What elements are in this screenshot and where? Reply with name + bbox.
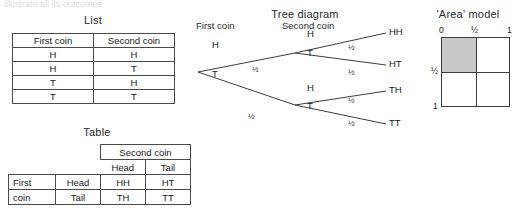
tree-label-h2b: H bbox=[307, 82, 314, 93]
list-cell: H bbox=[94, 48, 175, 62]
list-cell: T bbox=[94, 90, 175, 104]
tree-label-t2b: T bbox=[307, 100, 313, 111]
list-representation: List First coin Second coin H H H T T H … bbox=[12, 14, 175, 104]
tree-prob-h2a: ½ bbox=[348, 43, 355, 52]
tree-diagram-representation: Tree diagram First coin Second coin H T … bbox=[196, 6, 416, 136]
list-cell: H bbox=[94, 76, 175, 90]
table-corner-blank bbox=[9, 145, 56, 160]
table-row: T T bbox=[13, 90, 175, 104]
tree-prob-h2b: ½ bbox=[348, 96, 355, 105]
table-cell-tt: TT bbox=[146, 190, 191, 205]
table-representation: Table Second coin Head Tail First Head H… bbox=[8, 126, 191, 205]
tree-outcome-hh: HH bbox=[389, 26, 403, 37]
table-corner-blank bbox=[56, 145, 101, 160]
tree-stage1-header: First coin bbox=[196, 20, 235, 31]
table-row-group-header-line1: First bbox=[9, 175, 56, 190]
area-x-tick-0: 0 bbox=[439, 25, 444, 35]
tree-prob-h1: ½ bbox=[252, 65, 259, 74]
table-cell-hh: HH bbox=[101, 175, 146, 190]
list-cell: H bbox=[13, 48, 94, 62]
list-cell: T bbox=[13, 76, 94, 90]
area-model-representation: 'Area' model 0 ½ 1 ½ 1 bbox=[420, 6, 516, 131]
table-corner-blank bbox=[56, 160, 101, 175]
tree-label-h2a: H bbox=[307, 28, 314, 39]
tree-outcome-th: TH bbox=[389, 84, 402, 95]
table-group-header-row: Second coin bbox=[9, 145, 191, 160]
tree-prob-t1: ½ bbox=[248, 112, 255, 121]
table-header-row: First coin Second coin bbox=[13, 34, 175, 48]
list-cell: T bbox=[94, 62, 175, 76]
area-model-title: 'Area' model bbox=[420, 8, 516, 20]
area-horizontal-divider bbox=[442, 72, 509, 73]
list-header-first-coin: First coin bbox=[13, 34, 94, 48]
tree-label-t1: T bbox=[212, 68, 218, 79]
table-cell-th: TH bbox=[101, 190, 146, 205]
tree-outcome-ht: HT bbox=[389, 58, 402, 69]
tree-prob-t2a: ½ bbox=[348, 68, 355, 77]
table-row: H H bbox=[13, 48, 175, 62]
table-row: coin Tail TH TT bbox=[9, 190, 191, 205]
area-x-tick-1: 1 bbox=[507, 25, 512, 35]
table-row-header-tail: Tail bbox=[56, 190, 101, 205]
table-row: First Head HH HT bbox=[9, 175, 191, 190]
tree-outcome-tt: TT bbox=[389, 117, 401, 128]
table-row: H T bbox=[13, 62, 175, 76]
table-row-header-head: Head bbox=[56, 175, 101, 190]
cropped-header-text: illustrate all its outcomes bbox=[4, 0, 204, 7]
area-model-square bbox=[441, 37, 510, 107]
table-col-group-header: Second coin bbox=[101, 145, 191, 160]
table-row: T H bbox=[13, 76, 175, 90]
tree-label-t2a: T bbox=[307, 47, 313, 58]
two-way-table: Second coin Head Tail First Head HH HT c… bbox=[8, 144, 191, 205]
list-cell: T bbox=[13, 90, 94, 104]
area-y-tick-1: 1 bbox=[433, 101, 438, 111]
table-title: Table bbox=[8, 126, 186, 138]
list-header-second-coin: Second coin bbox=[94, 34, 175, 48]
tree-prob-t2b: ½ bbox=[348, 119, 355, 128]
table-corner-blank bbox=[9, 160, 56, 175]
area-shaded-quadrant bbox=[442, 38, 476, 72]
table-col-header-head: Head bbox=[101, 160, 146, 175]
tree-label-h1: H bbox=[212, 39, 219, 50]
list-cell: H bbox=[13, 62, 94, 76]
list-table: First coin Second coin H H H T T H T T bbox=[12, 33, 175, 104]
table-row-group-header-line2: coin bbox=[9, 190, 56, 205]
list-title: List bbox=[12, 14, 174, 26]
area-x-tick-half: ½ bbox=[471, 25, 478, 35]
table-col-header-row: Head Tail bbox=[9, 160, 191, 175]
table-col-header-tail: Tail bbox=[146, 160, 191, 175]
table-cell-ht: HT bbox=[146, 175, 191, 190]
area-y-tick-half: ½ bbox=[431, 66, 438, 76]
